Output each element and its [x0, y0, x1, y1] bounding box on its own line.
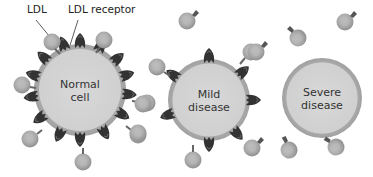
ldl-receptor-label: LDL receptor	[68, 3, 135, 15]
ldl-leader-line	[36, 20, 50, 37]
mild-disease-label-line1: Mild	[179, 88, 239, 101]
ldl-receptor-diagram: LDL LDL receptor Normal cell Mild diseas…	[0, 0, 373, 177]
normal-cell-label: Normal cell	[50, 78, 110, 104]
severe-disease-label-line1: Severe	[292, 86, 352, 99]
severe-disease-label: Severe disease	[292, 86, 352, 112]
ldl-label: LDL	[27, 3, 47, 15]
mild-disease-label: Mild disease	[179, 88, 239, 114]
mild-disease-label-line2: disease	[179, 101, 239, 114]
normal-cell-label-line1: Normal	[50, 78, 110, 91]
severe-disease-label-line2: disease	[292, 99, 352, 112]
normal-cell-label-line2: cell	[50, 91, 110, 104]
